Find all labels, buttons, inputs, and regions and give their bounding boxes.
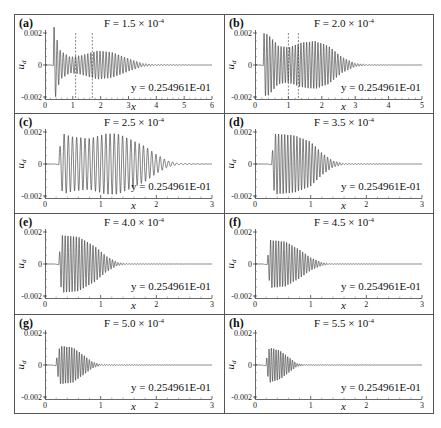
y-tick-label: 0 [248, 361, 252, 370]
x-axis-label: x [340, 299, 346, 311]
y-position-annotation: y = 0.254961E-01 [341, 280, 421, 292]
x-tick-label: 3 [420, 401, 424, 410]
x-tick-label: 1 [309, 200, 313, 209]
x-tick-label: 2 [364, 200, 368, 209]
x-tick-label: 2 [320, 101, 324, 110]
panel-c: (c)F = 2.5 × 10-40.0020-0.0020123xudy = … [14, 115, 214, 211]
x-tick-label: 5 [420, 101, 424, 110]
x-axis-label: x [130, 299, 136, 311]
x-tick-label: 5 [182, 101, 186, 110]
panel-label: (b) [229, 16, 244, 30]
panel-label: (c) [19, 115, 32, 129]
panel-title: F = 5.5 × 10-4 [314, 317, 375, 329]
panel-title: F = 3.5 × 10-4 [314, 116, 375, 128]
panel-label: (a) [19, 16, 33, 30]
y-tick-label: 0 [248, 160, 252, 169]
y-tick-label: 0.002 [24, 228, 42, 237]
x-tick-label: 6 [210, 101, 214, 110]
x-tick-label: 0 [43, 401, 47, 410]
panel-d: (d)F = 3.5 × 10-40.0020-0.0020123xudy = … [224, 115, 424, 211]
y-position-annotation: y = 0.254961E-01 [341, 180, 421, 192]
x-tick-label: 2 [364, 300, 368, 309]
y-tick-label: -0.002 [21, 93, 42, 102]
x-tick-label: 4 [154, 101, 158, 110]
y-tick-label: -0.002 [231, 93, 252, 102]
x-tick-label: 2 [154, 300, 158, 309]
y-axis-label: ud [14, 360, 28, 370]
y-position-annotation: y = 0.254961E-01 [131, 81, 211, 93]
x-tick-label: 2 [99, 101, 103, 110]
x-tick-label: 1 [99, 200, 103, 209]
y-tick-label: 0 [38, 361, 42, 370]
y-axis-label: ud [224, 60, 238, 70]
x-tick-label: 1 [309, 401, 313, 410]
x-axis-label: x [130, 100, 136, 112]
y-axis-label: ud [14, 60, 28, 70]
x-axis-label: x [130, 400, 136, 412]
x-axis-label: x [130, 199, 136, 211]
panel-label: (g) [19, 316, 33, 330]
x-tick-label: 1 [309, 300, 313, 309]
x-tick-label: 3 [127, 101, 131, 110]
y-position-annotation: y = 0.254961E-01 [131, 381, 211, 393]
x-tick-label: 3 [420, 200, 424, 209]
panel-a: (a)F = 1.5 × 10-40.0020-0.0020123456xudy… [14, 16, 214, 112]
x-tick-label: 0 [43, 200, 47, 209]
x-tick-label: 1 [286, 101, 290, 110]
panel-h: (h)F = 5.5 × 10-40.0020-0.0020123xudy = … [224, 316, 424, 412]
y-axis-label: ud [224, 159, 238, 169]
signal-trace [255, 348, 422, 382]
panel-b: (b)F = 2.0 × 10-40.0020-0.002012345xudy … [224, 16, 424, 112]
signal-trace [45, 346, 212, 384]
panel-label: (f) [229, 215, 241, 229]
x-tick-label: 0 [253, 200, 257, 209]
y-tick-label: 0 [38, 61, 42, 70]
x-tick-label: 1 [99, 300, 103, 309]
y-tick-label: 0.002 [24, 329, 42, 338]
x-tick-label: 4 [387, 101, 391, 110]
y-tick-label: 0 [38, 160, 42, 169]
x-axis-label: x [340, 199, 346, 211]
x-axis-label: x [340, 100, 346, 112]
y-tick-label: 0 [38, 260, 42, 269]
y-tick-label: -0.002 [21, 192, 42, 201]
x-tick-label: 2 [154, 401, 158, 410]
x-tick-label: 3 [353, 101, 357, 110]
y-tick-label: -0.002 [231, 192, 252, 201]
panel-title: F = 4.5 × 10-4 [314, 216, 375, 228]
panel-title: F = 2.0 × 10-4 [314, 17, 375, 29]
x-tick-label: 3 [210, 300, 214, 309]
panel-title: F = 2.5 × 10-4 [104, 116, 165, 128]
y-tick-label: 0.002 [234, 128, 252, 137]
x-tick-label: 2 [154, 200, 158, 209]
panel-label: (e) [19, 215, 32, 229]
panel-f: (f)F = 4.5 × 10-40.0020-0.0020123xudy = … [224, 215, 424, 311]
x-tick-label: 0 [253, 401, 257, 410]
panel-title: F = 4.0 × 10-4 [104, 216, 165, 228]
x-tick-label: 3 [210, 200, 214, 209]
x-tick-label: 2 [364, 401, 368, 410]
y-position-annotation: y = 0.254961E-01 [341, 381, 421, 393]
y-tick-label: 0.002 [24, 128, 42, 137]
y-tick-label: 0.002 [234, 228, 252, 237]
panel-e: (e)F = 4.0 × 10-40.0020-0.0020123xudy = … [14, 215, 214, 311]
y-tick-label: 0.002 [234, 29, 252, 38]
y-position-annotation: y = 0.254961E-01 [341, 81, 421, 93]
y-tick-label: -0.002 [231, 292, 252, 301]
x-tick-label: 0 [253, 300, 257, 309]
y-tick-label: 0 [248, 260, 252, 269]
x-axis-label: x [340, 400, 346, 412]
y-axis-label: ud [224, 360, 238, 370]
x-tick-label: 0 [253, 101, 257, 110]
figure-grid: (a)F = 1.5 × 10-40.0020-0.0020123456xudy… [0, 0, 441, 428]
y-tick-label: 0.002 [234, 329, 252, 338]
panel-title: F = 1.5 × 10-4 [104, 17, 165, 29]
y-tick-label: -0.002 [21, 393, 42, 402]
y-position-annotation: y = 0.254961E-01 [131, 280, 211, 292]
y-axis-label: ud [14, 159, 28, 169]
y-tick-label: 0.002 [24, 29, 42, 38]
x-tick-label: 3 [420, 300, 424, 309]
panel-g: (g)F = 5.0 × 10-40.0020-0.0020123xudy = … [14, 316, 214, 412]
x-tick-label: 0 [43, 101, 47, 110]
y-tick-label: -0.002 [231, 393, 252, 402]
